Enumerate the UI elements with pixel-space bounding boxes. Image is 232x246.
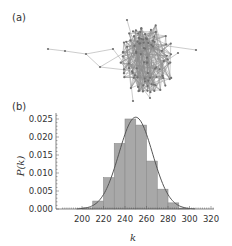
panel-a-label: (a) — [12, 12, 26, 23]
network-node — [126, 19, 128, 21]
network-node — [195, 49, 197, 51]
network-node — [133, 35, 135, 37]
network-node — [128, 62, 130, 64]
x-tick-label: 260 — [138, 214, 154, 224]
network-node — [165, 43, 167, 45]
network-node — [142, 90, 144, 92]
network-node — [134, 74, 136, 76]
histogram-bar — [168, 203, 179, 209]
network-node — [123, 76, 125, 78]
histogram-bar — [147, 161, 158, 209]
figure: (a) (b) 0.0000.0050.0100.0150.0200.025 2… — [0, 0, 232, 246]
network-node — [133, 45, 135, 47]
network-node — [153, 35, 155, 37]
network-node — [147, 80, 149, 82]
network-node — [149, 91, 151, 93]
network-node — [120, 62, 122, 64]
network-node — [85, 53, 87, 55]
network-node — [130, 87, 132, 89]
network-node — [122, 51, 124, 53]
x-tick-label: 320 — [203, 214, 219, 224]
network-node — [162, 75, 164, 77]
x-axis-label: k — [130, 232, 136, 243]
x-tick-labels: 200220240260280300320 — [74, 214, 219, 224]
network-node — [177, 52, 179, 54]
network-node — [170, 42, 172, 44]
y-tick-label: 0.005 — [29, 186, 53, 196]
network-node — [132, 30, 134, 32]
y-tick-label: 0.025 — [29, 114, 53, 124]
network-node — [135, 52, 137, 54]
network-node — [139, 42, 141, 44]
histogram-bar — [136, 125, 147, 209]
network-node — [169, 78, 171, 80]
y-tick-label: 0.010 — [29, 168, 53, 178]
y-tick-label: 0.020 — [29, 132, 53, 142]
network-node — [147, 42, 149, 44]
network-node — [145, 62, 147, 64]
network-node — [131, 72, 133, 74]
network-node — [112, 48, 114, 50]
network-node — [135, 29, 137, 31]
histogram-bar — [125, 119, 136, 209]
network-node — [140, 53, 142, 55]
network-node — [155, 31, 157, 33]
network-node — [136, 76, 138, 78]
network-node — [149, 97, 151, 99]
network-node — [146, 57, 148, 59]
x-tick-label: 280 — [160, 214, 176, 224]
network-node — [132, 100, 134, 102]
network-node — [155, 24, 157, 26]
network-node — [133, 77, 135, 79]
network-node — [150, 29, 152, 31]
network-node — [139, 31, 141, 33]
network-node — [152, 45, 154, 47]
network-node — [99, 66, 101, 68]
x-tick-label: 200 — [74, 214, 90, 224]
network-node — [143, 61, 145, 63]
network-node — [143, 42, 145, 44]
network-node — [163, 60, 165, 62]
network-node — [161, 50, 163, 52]
network-node — [146, 90, 148, 92]
network-node — [64, 50, 66, 52]
network-node — [150, 44, 152, 46]
network-node — [159, 89, 161, 91]
network-node — [138, 90, 140, 92]
histogram-bars — [82, 119, 190, 209]
network-node — [122, 55, 124, 57]
panel-b-label: (b) — [12, 101, 26, 112]
y-tick-labels: 0.0000.0050.0100.0150.0200.025 — [29, 114, 53, 214]
network-node — [159, 68, 161, 70]
network-node — [123, 68, 125, 70]
network-node — [166, 55, 168, 57]
network-node — [147, 72, 149, 74]
histogram-plot: 0.0000.0050.0100.0150.0200.025 200220240… — [15, 113, 219, 243]
network-node — [155, 84, 157, 86]
network-node — [123, 41, 125, 43]
network-node — [169, 61, 171, 63]
network-node — [136, 67, 138, 69]
network-node — [149, 77, 151, 79]
network-graph — [47, 19, 197, 102]
network-node — [164, 84, 166, 86]
network-node — [152, 40, 154, 42]
network-node — [137, 86, 139, 88]
network-node — [144, 80, 146, 82]
x-tick-label: 240 — [117, 214, 133, 224]
network-node — [136, 41, 138, 43]
network-node — [145, 37, 147, 39]
network-node — [139, 37, 141, 39]
y-tick-label: 0.000 — [29, 204, 53, 214]
network-node — [154, 68, 156, 70]
network-node — [165, 35, 167, 37]
network-node — [153, 90, 155, 92]
network-node — [137, 32, 139, 34]
network-node — [140, 27, 142, 29]
x-tick-label: 300 — [181, 214, 197, 224]
network-node — [155, 76, 157, 78]
network-node — [125, 41, 127, 43]
network-node — [151, 83, 153, 85]
network-node — [142, 84, 144, 86]
network-node — [170, 53, 172, 55]
